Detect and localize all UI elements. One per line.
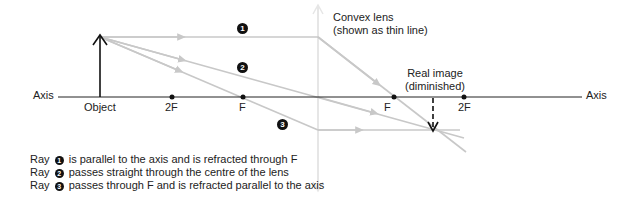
- ray-2-marker: 2: [237, 62, 248, 73]
- image-label-line1: Real image: [405, 67, 465, 80]
- right-f-label: F: [384, 101, 391, 114]
- axis-label-right: Axis: [586, 89, 607, 102]
- ray-2-bullet: 2: [55, 169, 64, 178]
- right-2f-label: 2F: [458, 101, 471, 114]
- ray-1-marker: 1: [237, 23, 248, 34]
- ray-3-bullet: 3: [55, 182, 64, 191]
- ray-1-bullet: 1: [55, 156, 64, 165]
- lens-label: Convex lens (shown as thin line): [333, 11, 428, 37]
- object-label: Object: [84, 101, 116, 114]
- legend-row-2: Ray 2 passes straight through the centre…: [30, 166, 324, 179]
- left-2f-label: 2F: [165, 101, 178, 114]
- legend-row-1: Ray 1 is parallel to the axis and is ref…: [30, 153, 324, 166]
- image-arrow-icon: [428, 98, 438, 131]
- left-f-label: F: [239, 101, 246, 114]
- right-f-point: [392, 95, 397, 100]
- right-2f-point: [462, 95, 467, 100]
- lens-label-line2: (shown as thin line): [333, 24, 428, 37]
- ray-3-marker: 3: [277, 119, 288, 130]
- object-arrow-icon: [93, 35, 107, 97]
- ray-1: [100, 37, 466, 152]
- image-label: Real image (diminished): [405, 67, 465, 93]
- left-2f-point: [170, 95, 175, 100]
- ray-legend: Ray 1 is parallel to the axis and is ref…: [30, 153, 324, 192]
- left-f-point: [241, 95, 246, 100]
- lens-label-line1: Convex lens: [333, 11, 428, 24]
- axis-label-left: Axis: [33, 89, 54, 102]
- image-label-line2: (diminished): [405, 80, 465, 93]
- legend-row-3: Ray 3 passes through F and is refracted …: [30, 179, 324, 192]
